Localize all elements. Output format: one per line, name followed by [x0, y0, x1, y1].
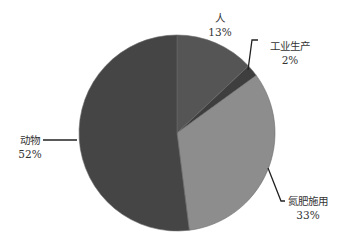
pie-chart: 人 13% 工业生产 2% 氮肥施用 33% 动物 52% [0, 0, 345, 244]
label-pct-people: 13% [208, 26, 231, 38]
label-name-industry: 工业生产 [270, 40, 310, 52]
label-name-animal: 动物 [20, 134, 40, 146]
label-pct-fertilizer: 33% [296, 209, 319, 221]
leader-line-fertilizer [268, 168, 285, 201]
label-name-fertilizer: 氮肥施用 [288, 195, 328, 207]
label-pct-animal: 52% [18, 148, 41, 160]
label-name-people: 人 [215, 12, 226, 24]
slice-animal [79, 35, 189, 231]
label-pct-industry: 2% [282, 54, 299, 66]
leader-line-industry [248, 40, 258, 70]
pie-slices [79, 35, 275, 231]
